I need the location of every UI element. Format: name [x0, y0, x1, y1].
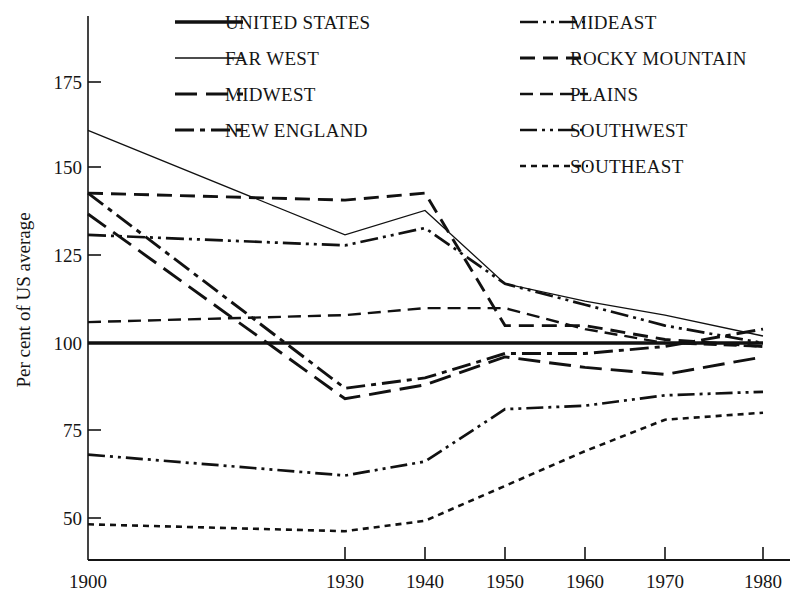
legend: UNITED STATESFAR WESTMIDWESTNEW ENGLANDM… — [175, 12, 747, 177]
legend-label-southwest: SOUTHWEST — [570, 120, 688, 141]
regional-income-line-chart: 5075100125150175 19001930194019501960197… — [0, 0, 811, 602]
y-tick-label-125: 125 — [54, 245, 83, 266]
series-line-midwest — [88, 214, 763, 399]
legend-label-new-england: NEW ENGLAND — [225, 120, 368, 141]
x-tick-label-1950: 1950 — [486, 571, 524, 592]
series-line-southwest — [88, 392, 763, 476]
series-line-southeast — [88, 413, 763, 532]
y-tick-marks — [88, 82, 101, 518]
x-tick-label-1940: 1940 — [406, 571, 444, 592]
legend-label-rocky-mountain: ROCKY MOUNTAIN — [570, 48, 747, 69]
y-tick-label-175: 175 — [54, 72, 83, 93]
legend-label-far-west: FAR WEST — [225, 48, 319, 69]
y-tick-label-50: 50 — [63, 508, 82, 529]
y-tick-label-100: 100 — [54, 333, 83, 354]
series-line-new-england — [88, 193, 763, 388]
series-group — [88, 130, 763, 531]
legend-label-southeast: SOUTHEAST — [570, 156, 684, 177]
x-tick-marks — [345, 547, 763, 560]
x-tick-label-1960: 1960 — [566, 571, 604, 592]
x-tick-labels: 1900193019401950196019701980 — [69, 571, 782, 592]
y-axis-title: Per cent of US average — [13, 212, 34, 387]
legend-label-plains: PLAINS — [570, 84, 638, 105]
legend-label-midwest: MIDWEST — [225, 84, 316, 105]
chart-root: 5075100125150175 19001930194019501960197… — [0, 0, 811, 602]
x-tick-label-1980: 1980 — [744, 571, 782, 592]
y-tick-label-75: 75 — [63, 420, 82, 441]
y-tick-labels: 5075100125150175 — [54, 72, 83, 529]
y-tick-label-150: 150 — [54, 157, 83, 178]
x-tick-label-1900: 1900 — [69, 571, 107, 592]
series-line-mideast — [88, 228, 763, 343]
x-tick-label-1970: 1970 — [646, 571, 684, 592]
legend-label-united-states: UNITED STATES — [225, 12, 370, 33]
legend-label-mideast: MIDEAST — [570, 12, 657, 33]
x-tick-label-1930: 1930 — [326, 571, 364, 592]
series-line-plains — [88, 308, 763, 346]
